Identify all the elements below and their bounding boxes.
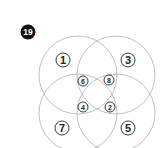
label-inner-bottom-right: 2: [108, 104, 112, 111]
venn-diagram: 19 1 3 7 5 6 8 4 2: [0, 0, 163, 148]
label-bottom-left: 7: [59, 122, 65, 134]
label-inner-top-right: 8: [107, 77, 111, 84]
label-inner-top-left: 6: [81, 78, 85, 85]
label-top-left: 1: [60, 54, 66, 66]
problem-badge: 19: [21, 25, 36, 40]
badge-number: 19: [23, 27, 33, 37]
label-bottom-right: 5: [125, 122, 131, 134]
circle-top-right: [77, 36, 155, 114]
circle-top-left: [39, 36, 117, 114]
label-top-right: 3: [125, 54, 131, 66]
label-inner-bottom-left: 4: [81, 104, 85, 111]
